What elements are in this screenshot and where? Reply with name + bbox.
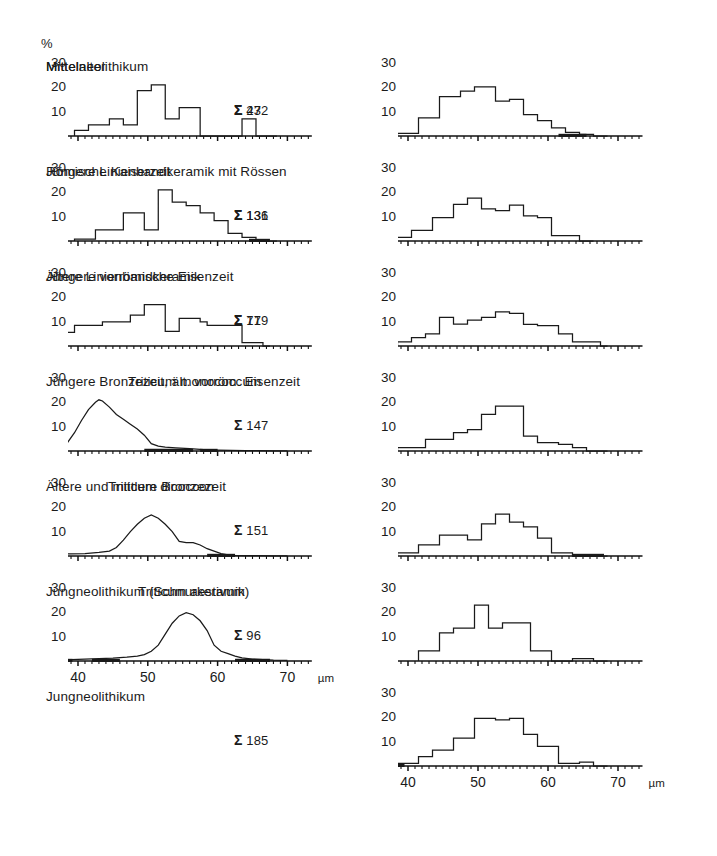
sample-count: 185	[242, 733, 268, 748]
y-tick-label: 10	[381, 420, 396, 434]
plot-area	[398, 58, 670, 152]
y-tick-label: 10	[51, 525, 66, 539]
y-tick-label: 30	[381, 686, 396, 700]
plot-area	[398, 583, 670, 677]
panel-title: Jungneolithikum	[46, 690, 145, 704]
y-tick-label: 30	[381, 56, 396, 70]
x-tick-label: 70	[280, 670, 296, 684]
y-tick-label: 10	[381, 630, 396, 644]
sample-count-label: Σ 185	[234, 733, 269, 747]
panel-triticum-monococcum: 302010Triticum monococcum	[40, 373, 322, 481]
x-tick-label: 70	[610, 775, 626, 789]
panel-title: Mittelalter	[46, 60, 106, 74]
y-tick-label: 20	[381, 710, 396, 724]
panel-juengere-vorroemische-eisenzeit: 302010Jüngere vorrömische EisenzeitΣ 179	[370, 268, 652, 376]
panel-roemische-kaiserzeit: 302010Römische KaiserzeitΣ 136	[370, 163, 652, 271]
sample-count-label: Σ 179	[234, 313, 269, 327]
y-tick-label: 30	[381, 371, 396, 385]
panel-aeltere-und-mittlere-bronzezeit: 302010Ältere und mittlere BronzezeitΣ 15…	[370, 478, 652, 586]
y-tick-label: 10	[51, 630, 66, 644]
plot-area	[398, 163, 670, 257]
plot-area	[398, 688, 670, 782]
x-tick-label: 60	[540, 775, 556, 789]
sample-count: 179	[242, 313, 268, 328]
y-tick-label: 20	[381, 500, 396, 514]
sample-count: 272	[242, 103, 268, 118]
y-tick-label: 20	[51, 605, 66, 619]
y-tick-label: 10	[381, 315, 396, 329]
y-tick-label: 10	[51, 420, 66, 434]
panel-aeltere-linienbandkeramik: 302010Ältere LinienbandkeramikΣ 71	[40, 268, 322, 376]
sample-count-label: Σ 96	[234, 628, 261, 642]
y-tick-label: 10	[51, 210, 66, 224]
y-tick-label: 20	[51, 80, 66, 94]
y-axis-labels: 302010	[40, 373, 66, 481]
y-axis-labels: 302010	[370, 688, 396, 796]
y-tick-label: 30	[381, 581, 396, 595]
y-tick-label: 20	[51, 395, 66, 409]
panel-juengere-bronzezeit-aelt-vorroem-eisenzeit: 302010Jüngere Bronzezeit, ält. vorröm. E…	[370, 373, 652, 481]
panel-title: Jüngere Bronzezeit, ält. vorröm. Eisenze…	[46, 375, 300, 389]
x-axis-unit-label: µm	[318, 673, 334, 685]
panel-mittelalter: 302010MittelalterΣ 272	[370, 58, 652, 166]
y-axis-unit-label: %	[41, 36, 53, 51]
x-tick-label: 50	[470, 775, 486, 789]
y-axis-labels: 302010	[40, 58, 66, 166]
y-tick-label: 10	[381, 105, 396, 119]
x-tick-label: 60	[210, 670, 226, 684]
y-tick-label: 30	[381, 266, 396, 280]
y-axis-labels: 302010	[40, 268, 66, 376]
x-tick-label: 50	[140, 670, 156, 684]
y-tick-label: 20	[51, 500, 66, 514]
y-tick-label: 10	[381, 525, 396, 539]
y-tick-label: 20	[381, 395, 396, 409]
y-axis-labels: 302010	[40, 163, 66, 271]
y-tick-label: 10	[51, 105, 66, 119]
y-tick-label: 20	[51, 290, 66, 304]
y-tick-label: 20	[381, 80, 396, 94]
sample-count-label: Σ 147	[234, 418, 269, 432]
sample-count-label: Σ 136	[234, 208, 269, 222]
panel-title: Jungneolithikum (Schnurkeramik)	[46, 585, 249, 599]
y-tick-label: 20	[51, 185, 66, 199]
sample-count-label: Σ 272	[234, 103, 269, 117]
panel-title: Ältere und mittlere Bronzezeit	[46, 480, 226, 494]
sample-count: 96	[242, 628, 261, 643]
panel-triticum-aestivum: 302010Triticum aestivum40506070µm	[40, 583, 322, 691]
sample-count: 151	[242, 523, 268, 538]
y-tick-label: 10	[381, 210, 396, 224]
plot-area	[398, 268, 670, 362]
y-tick-label: 20	[381, 185, 396, 199]
panel-jungneolithikum: 302010JungneolithikumΣ 18540506070µm	[370, 688, 652, 796]
x-tick-label: 40	[70, 670, 86, 684]
panel-jungneolithikum-schnurkeramik: 302010Jungneolithikum (Schnurkeramik)Σ 9…	[370, 583, 652, 691]
y-axis-labels: 302010	[40, 478, 66, 586]
y-axis-labels: 302010	[370, 58, 396, 166]
panel-juengere-linienbandkeramik-mit-roessen: 302010Jüngere Linienbandkeramik mit Röss…	[40, 163, 322, 271]
plot-area	[398, 478, 670, 572]
y-tick-label: 20	[381, 290, 396, 304]
y-tick-label: 10	[381, 735, 396, 749]
y-tick-label: 30	[381, 476, 396, 490]
sample-count: 136	[242, 208, 268, 223]
y-axis-labels: 302010	[370, 163, 396, 271]
panel-triticum-dicoccon: 302010Triticum dicoccon	[40, 478, 322, 586]
x-axis-unit-label: µm	[649, 778, 665, 790]
panel-title: Jüngere vorrömische Eisenzeit	[46, 270, 233, 284]
sample-count: 147	[242, 418, 268, 433]
y-axis-labels: 302010	[370, 373, 396, 481]
y-tick-label: 10	[51, 315, 66, 329]
x-tick-label: 40	[400, 775, 416, 789]
panel-mittelneolithikum: 302010MittelneolithikumΣ 43	[40, 58, 322, 166]
y-axis-labels: 302010	[370, 268, 396, 376]
y-tick-label: 20	[381, 605, 396, 619]
y-axis-labels: 302010	[370, 583, 396, 691]
plot-area	[398, 373, 670, 467]
sample-count-label: Σ 151	[234, 523, 269, 537]
y-tick-label: 30	[381, 161, 396, 175]
y-axis-labels: 302010	[40, 583, 66, 691]
figure-root: % 302010MittelneolithikumΣ 43302010Jünge…	[0, 0, 717, 856]
y-axis-labels: 302010	[370, 478, 396, 586]
panel-title: Römische Kaiserzeit	[46, 165, 171, 179]
